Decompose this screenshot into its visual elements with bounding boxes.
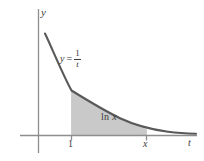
area-label-variable: x (112, 111, 117, 122)
t-axis-label: t (188, 138, 191, 148)
curve-equation-equals-sign: = (66, 54, 72, 64)
curve-equation-label: y = 1 t (60, 49, 81, 69)
curve-equation-denominator: t (75, 60, 80, 69)
tick-label-1: 1 (68, 139, 73, 149)
area-label-ln-x: ln x (101, 112, 117, 122)
curve-equation-numerator: 1 (74, 49, 81, 58)
graph-canvas (0, 0, 204, 161)
tick-label-x: x (143, 139, 147, 149)
y-axis-label: y (41, 7, 46, 18)
figure-container: y t 1 x ln x y = 1 t (0, 0, 204, 161)
curve-equation-lhs: y (60, 54, 64, 64)
curve-equation-fraction: 1 t (74, 49, 81, 69)
